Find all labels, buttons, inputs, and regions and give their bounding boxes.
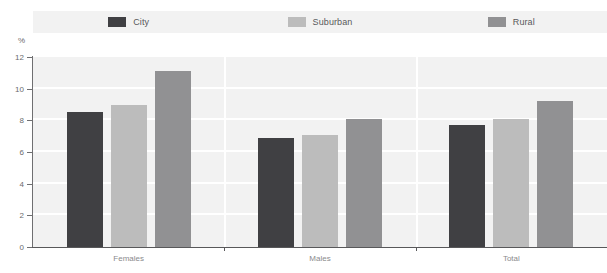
legend-swatch-rural xyxy=(488,17,506,27)
y-axis-line xyxy=(32,56,33,248)
y-axis-tick-label: 4 xyxy=(2,180,24,189)
legend-swatch-city xyxy=(108,17,126,27)
y-axis-unit-label: % xyxy=(18,36,25,45)
chart-legend: City Suburban Rural xyxy=(33,11,607,33)
legend-label-rural: Rural xyxy=(513,17,535,27)
bar-males-city xyxy=(258,138,294,247)
y-axis-tick xyxy=(27,120,32,121)
x-axis-category-label: Males xyxy=(309,254,330,263)
x-axis-category-label: Females xyxy=(113,254,144,263)
plot-area xyxy=(33,57,607,247)
legend-label-city: City xyxy=(133,17,149,27)
legend-item-suburban: Suburban xyxy=(224,17,415,27)
legend-item-city: City xyxy=(33,17,224,27)
x-axis-category-label: Total xyxy=(503,254,520,263)
bar-females-rural xyxy=(155,71,191,247)
gridline-vertical xyxy=(416,57,418,247)
bar-females-city xyxy=(67,112,103,247)
y-axis-tick-label: 6 xyxy=(2,148,24,157)
y-axis-tick-label: 12 xyxy=(2,53,24,62)
bar-females-suburban xyxy=(111,105,147,248)
bar-total-city xyxy=(449,125,485,247)
legend-swatch-suburban xyxy=(288,17,306,27)
bar-males-rural xyxy=(346,119,382,247)
x-axis-tick xyxy=(416,247,417,251)
y-axis-tick xyxy=(27,184,32,185)
y-axis-tick-label: 2 xyxy=(2,211,24,220)
y-axis-tick xyxy=(27,152,32,153)
y-axis-tick-label: 0 xyxy=(2,243,24,252)
y-axis-tick-label: 10 xyxy=(2,85,24,94)
x-axis-line xyxy=(32,247,607,248)
bar-males-suburban xyxy=(302,135,338,247)
bar-total-suburban xyxy=(493,119,529,247)
bar-total-rural xyxy=(537,101,573,247)
y-axis-labels: 024681012 xyxy=(0,57,24,247)
gridline-horizontal xyxy=(33,55,607,57)
legend-item-rural: Rural xyxy=(416,17,607,27)
legend-label-suburban: Suburban xyxy=(313,17,353,27)
y-axis-tick xyxy=(27,57,32,58)
y-axis-tick xyxy=(27,89,32,90)
x-axis-tick xyxy=(224,247,225,251)
gridline-vertical xyxy=(224,57,226,247)
y-axis-tick-label: 8 xyxy=(2,116,24,125)
y-axis-tick xyxy=(27,215,32,216)
gridline-horizontal xyxy=(33,87,607,89)
